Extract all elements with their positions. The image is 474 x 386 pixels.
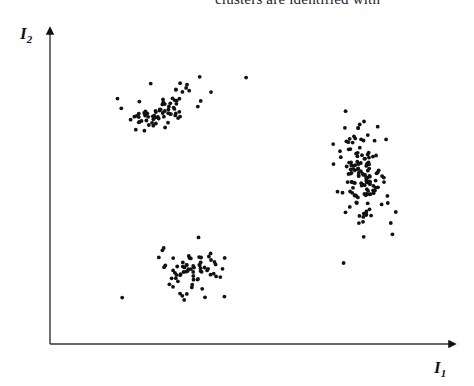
data-point bbox=[173, 271, 177, 275]
data-point bbox=[244, 76, 248, 80]
data-point bbox=[380, 203, 384, 207]
data-point bbox=[187, 89, 191, 93]
data-point bbox=[221, 267, 225, 271]
scatter-plot: I2 I1 bbox=[0, 0, 474, 386]
data-point bbox=[138, 120, 142, 124]
data-point bbox=[382, 176, 386, 180]
data-point bbox=[346, 140, 350, 144]
data-point bbox=[166, 121, 170, 125]
data-point bbox=[348, 205, 352, 209]
data-point bbox=[149, 82, 153, 86]
data-point bbox=[159, 108, 163, 112]
data-point bbox=[218, 275, 222, 279]
data-point bbox=[368, 207, 372, 211]
data-point bbox=[184, 86, 188, 90]
data-point bbox=[129, 118, 133, 122]
data-point bbox=[171, 285, 175, 289]
data-point bbox=[339, 155, 343, 159]
data-point bbox=[394, 210, 398, 214]
data-point bbox=[376, 125, 380, 129]
data-point bbox=[391, 232, 395, 236]
data-point bbox=[382, 180, 386, 184]
data-point bbox=[376, 185, 380, 189]
data-point bbox=[199, 256, 203, 260]
data-point bbox=[173, 98, 177, 102]
data-point bbox=[178, 81, 182, 85]
data-point bbox=[213, 260, 217, 264]
data-point bbox=[185, 292, 189, 296]
data-point bbox=[352, 181, 356, 185]
data-point bbox=[357, 174, 361, 178]
data-point bbox=[356, 167, 360, 171]
data-point bbox=[389, 221, 393, 225]
data-point bbox=[209, 90, 213, 94]
data-point bbox=[366, 201, 370, 205]
data-point bbox=[351, 141, 355, 145]
data-point bbox=[342, 261, 346, 265]
data-point bbox=[365, 210, 369, 214]
data-point bbox=[176, 279, 180, 283]
data-point bbox=[119, 106, 123, 110]
data-point bbox=[187, 267, 191, 271]
data-point bbox=[347, 147, 351, 151]
data-point bbox=[152, 117, 156, 121]
data-point bbox=[203, 295, 207, 299]
data-point bbox=[341, 191, 345, 195]
data-point bbox=[357, 221, 361, 225]
data-point bbox=[386, 194, 390, 198]
data-point bbox=[350, 164, 354, 168]
data-point bbox=[338, 149, 342, 153]
data-point bbox=[143, 129, 147, 133]
data-point bbox=[358, 146, 362, 150]
data-point bbox=[358, 214, 362, 218]
data-point bbox=[182, 298, 186, 302]
data-point bbox=[196, 278, 200, 282]
data-point bbox=[174, 112, 178, 116]
data-point bbox=[166, 111, 170, 115]
data-point bbox=[362, 235, 366, 239]
data-point bbox=[147, 123, 151, 127]
data-point bbox=[174, 88, 178, 92]
data-point bbox=[170, 276, 174, 280]
y-axis-label: I2 bbox=[19, 24, 33, 45]
data-point bbox=[180, 294, 184, 298]
data-point bbox=[344, 210, 348, 214]
data-point bbox=[212, 272, 216, 276]
data-point bbox=[374, 154, 378, 158]
data-point bbox=[190, 283, 194, 287]
data-point bbox=[198, 263, 202, 267]
data-point bbox=[353, 194, 357, 198]
data-point bbox=[200, 270, 204, 274]
data-point bbox=[189, 257, 193, 261]
data-point bbox=[145, 119, 149, 123]
data-point bbox=[373, 189, 377, 193]
data-point bbox=[367, 163, 371, 167]
data-point bbox=[197, 236, 201, 240]
data-point bbox=[368, 180, 372, 184]
data-point bbox=[177, 110, 181, 114]
data-point bbox=[198, 75, 202, 79]
data-point bbox=[344, 109, 348, 113]
data-point bbox=[386, 201, 390, 205]
data-point bbox=[150, 121, 154, 125]
data-point bbox=[376, 171, 380, 175]
data-point bbox=[185, 83, 189, 87]
data-point bbox=[384, 138, 388, 142]
data-point bbox=[363, 157, 367, 161]
data-point bbox=[192, 278, 196, 282]
data-point bbox=[357, 162, 361, 166]
data-point bbox=[356, 126, 360, 130]
data-point bbox=[373, 139, 377, 143]
data-point bbox=[348, 137, 352, 141]
data-point bbox=[360, 153, 364, 157]
data-point bbox=[183, 266, 187, 270]
data-point bbox=[146, 115, 150, 119]
data-point bbox=[167, 105, 171, 109]
data-point bbox=[372, 184, 376, 188]
data-point bbox=[331, 142, 335, 146]
data-point bbox=[163, 109, 167, 113]
data-point bbox=[120, 296, 124, 300]
data-points bbox=[116, 75, 398, 302]
data-point bbox=[138, 100, 142, 104]
data-point bbox=[346, 180, 350, 184]
